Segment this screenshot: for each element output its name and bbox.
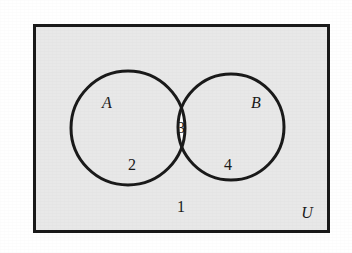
region-count-b-only: 4 bbox=[224, 156, 232, 173]
venn-diagram-canvas: A B U 1 2 3 4 bbox=[0, 0, 352, 253]
region-count-a-only: 2 bbox=[128, 156, 136, 173]
region-count-intersection: 3 bbox=[177, 119, 185, 136]
universe-label: U bbox=[301, 204, 314, 221]
venn-diagram-figure: A B U 1 2 3 4 bbox=[0, 0, 352, 253]
set-label-a: A bbox=[101, 94, 112, 111]
set-label-b: B bbox=[251, 94, 261, 111]
region-count-neither: 1 bbox=[177, 198, 185, 215]
